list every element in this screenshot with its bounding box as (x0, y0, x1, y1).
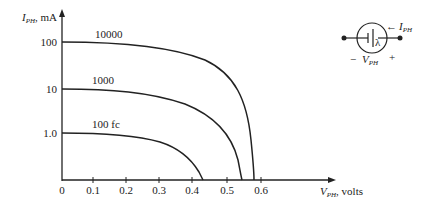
svg-text:0.6: 0.6 (254, 184, 268, 196)
x-axis-label: VPH, volts (320, 185, 363, 199)
y-tick-labels: 1.0 10 100 (41, 36, 58, 139)
curve-10000 (62, 42, 254, 180)
curve-label-10000: 10000 (95, 28, 123, 40)
svg-text:0.1: 0.1 (86, 184, 100, 196)
svg-text:0.4: 0.4 (185, 184, 199, 196)
curve-label-100fc: 100 fc (92, 118, 120, 130)
curve-1000 (62, 89, 242, 180)
y-axis-label: IPH, mA (21, 11, 57, 25)
svg-text:0.3: 0.3 (152, 184, 166, 196)
minus-sign: − (350, 53, 356, 65)
photodiode-iv-chart: 0 0.1 0.2 0.3 0.4 0.5 0.6 1.0 10 100 IPH… (0, 0, 438, 207)
svg-text:0: 0 (59, 184, 65, 196)
svg-text:100: 100 (41, 36, 58, 48)
plus-sign: + (389, 51, 395, 63)
curve-100fc (62, 133, 203, 180)
current-label: ←IPH (386, 20, 413, 34)
curve-label-1000: 1000 (92, 74, 115, 86)
x-tick-labels: 0 0.1 0.2 0.3 0.4 0.5 0.6 (59, 184, 268, 196)
light-lambda-icon: λ (375, 36, 381, 48)
y-axis-arrow-icon (59, 9, 65, 17)
voltage-label: VPH (362, 53, 379, 67)
svg-text:10: 10 (46, 83, 58, 95)
svg-text:1.0: 1.0 (43, 127, 57, 139)
svg-text:0.2: 0.2 (119, 184, 133, 196)
svg-text:0.5: 0.5 (220, 184, 234, 196)
x-axis-arrow-icon (328, 177, 336, 183)
photodiode-symbol: λ ←IPH − VPH + (342, 20, 413, 67)
